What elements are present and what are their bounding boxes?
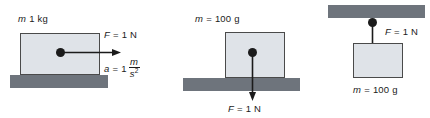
panel-downward-force-on-100g-block: m=100 g F=1 N	[150, 0, 305, 118]
panel-2-force-arrow	[150, 0, 305, 118]
panel-block-hanging-from-ceiling: F=1 N m=100 g	[305, 0, 430, 118]
panel-2-force-label: F=1 N	[228, 103, 261, 114]
panel-1-acceleration-label: a=1ms2	[104, 58, 140, 80]
panel-3-force-label: F=1 N	[385, 26, 418, 37]
panel-1-acceleration-unit-fraction: ms2	[129, 57, 140, 79]
physics-force-diagram-figure: m1 kg = F=1 N a=1ms2 m=100 g F=	[0, 0, 430, 118]
panel-horizontal-force-on-1kg-block: m1 kg = F=1 N a=1ms2	[0, 0, 150, 118]
panel-1-force-label: F=1 N	[104, 29, 137, 40]
panel-3-block	[353, 43, 403, 78]
panel-1-unit-denominator: s2	[129, 67, 140, 79]
panel-3-mass-label: m=100 g	[353, 84, 398, 95]
panel-1-unit-numerator: m	[129, 57, 140, 67]
